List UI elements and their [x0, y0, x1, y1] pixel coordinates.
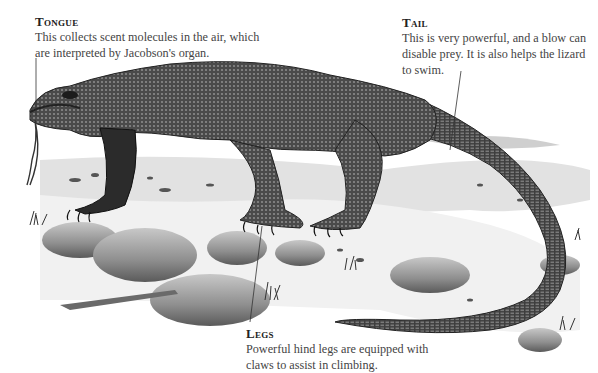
callout-tongue-body: This collects scent molecules in the air… [35, 29, 275, 61]
callout-legs-body: Powerful hind legs are equipped with cla… [246, 341, 446, 373]
callout-tongue-title: Tongue [35, 14, 275, 29]
callout-tail-title: Tail [402, 15, 587, 30]
callout-tail-body: This is very powerful, and a blow can di… [402, 30, 587, 78]
illustration-stage: Tongue This collects scent molecules in … [0, 0, 598, 373]
callout-legs-title: Legs [246, 326, 446, 341]
tongue [27, 120, 38, 185]
eye [62, 91, 78, 99]
callout-legs: Legs Powerful hind legs are equipped wit… [246, 326, 446, 373]
callout-tail: Tail This is very powerful, and a blow c… [402, 15, 587, 78]
callout-tongue: Tongue This collects scent molecules in … [35, 14, 275, 61]
